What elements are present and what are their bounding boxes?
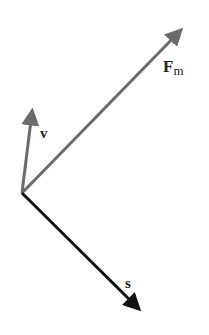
velocity-v-vector: [22, 112, 32, 193]
s-label: s: [125, 275, 131, 291]
fm-label: Fm: [163, 57, 184, 78]
vector-diagram: Fm v s: [0, 0, 209, 335]
v-label: v: [40, 125, 48, 141]
displacement-s-vector: [22, 193, 138, 308]
force-fm-vector: [22, 31, 180, 193]
